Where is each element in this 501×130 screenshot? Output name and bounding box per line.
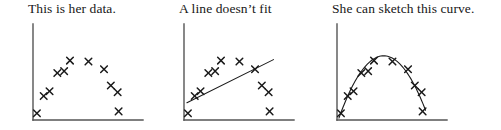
three-panel-scatter-figure: This is her data. A line doesn’t fit She… (0, 0, 501, 130)
data-point-marker (212, 68, 219, 75)
data-point-group (34, 57, 122, 116)
data-point-marker (67, 57, 74, 64)
panel-title-curve: She can sketch this curve. (332, 1, 474, 17)
data-point-marker (114, 89, 121, 96)
data-point-marker (252, 66, 259, 73)
data-point-group (338, 57, 426, 116)
data-point-marker (265, 89, 272, 96)
data-point-marker (61, 68, 68, 75)
data-point-marker (365, 68, 372, 75)
data-point-marker (266, 108, 273, 115)
scatter-plot-line (179, 22, 304, 127)
data-point-marker (259, 82, 266, 89)
data-point-marker (46, 88, 53, 95)
plot-area-curve (332, 22, 457, 127)
scatter-plot-data (28, 22, 153, 127)
panel-a-line-doesnt-fit: A line doesn’t fit (179, 0, 329, 130)
data-point-marker (54, 70, 61, 77)
panel-she-can-sketch-this-curve: She can sketch this curve. (332, 0, 501, 130)
trend-line (187, 60, 274, 103)
data-point-marker (218, 57, 225, 64)
panel-title-data: This is her data. (28, 1, 116, 17)
data-point-marker (108, 82, 115, 89)
plot-area-line (179, 22, 304, 127)
scatter-plot-curve (332, 22, 457, 127)
data-point-marker (101, 66, 108, 73)
data-point-marker (85, 58, 92, 65)
panel-this-is-her-data: This is her data. (28, 0, 178, 130)
panel-title-line: A line doesn’t fit (179, 1, 272, 17)
data-point-marker (236, 58, 243, 65)
data-point-marker (205, 70, 212, 77)
data-point-marker (197, 88, 204, 95)
data-point-marker (185, 110, 192, 117)
data-point-marker (115, 108, 122, 115)
data-point-marker (34, 110, 41, 117)
plot-area-data (28, 22, 153, 127)
